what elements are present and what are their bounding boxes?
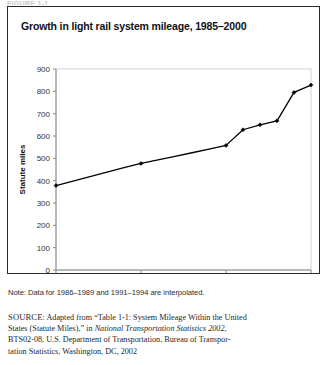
y-tick-label: 100 — [37, 244, 51, 253]
source-line2-post: , — [225, 324, 227, 333]
data-point-marker — [54, 184, 58, 188]
source-publication-title: National Transportation Statistics 2002 — [95, 324, 225, 333]
y-tick-label: 400 — [37, 177, 51, 186]
y-tick-label: 0 — [46, 266, 51, 275]
source-line-4: tation Statistics, Washington, DC, 2002 — [8, 346, 314, 357]
plot-frame — [56, 69, 311, 270]
data-point-marker — [309, 83, 313, 87]
y-tick-label: 900 — [37, 65, 51, 74]
source-line-2: States (Statute Miles),” in National Tra… — [8, 323, 314, 334]
y-tick-label: 800 — [37, 87, 51, 96]
source-line-1: SOURCE: Adapted from “Table 1-1: System … — [8, 312, 314, 323]
source-line1-text: : Adapted from “Table 1-1: System Mileag… — [43, 313, 247, 322]
y-tick-label: 300 — [37, 199, 51, 208]
data-point-marker — [139, 161, 143, 165]
y-axis-title: Statute miles — [18, 144, 27, 194]
data-line — [56, 85, 311, 186]
source-citation: SOURCE: Adapted from “Table 1-1: System … — [8, 312, 314, 357]
data-point-marker — [258, 123, 262, 127]
source-label: SOURCE — [8, 312, 43, 322]
chart-note: Note: Data for 1986–1989 and 1991–1994 a… — [8, 288, 320, 297]
line-chart: 0100200300400500600700800900198519901995… — [8, 7, 321, 275]
source-line-3: BTS02-08, U.S. Department of Transportat… — [8, 334, 314, 345]
y-tick-label: 600 — [37, 132, 51, 141]
figure-page: FIGURE 1-1 Growth in light rail system m… — [0, 0, 328, 365]
y-tick-label: 200 — [37, 221, 51, 230]
y-tick-label: 700 — [37, 110, 51, 119]
figure-box: Growth in light rail system mileage, 198… — [7, 6, 320, 274]
source-line2-pre: States (Statute Miles),” in — [8, 324, 95, 333]
y-tick-label: 500 — [37, 154, 51, 163]
cut-off-header-text: FIGURE 1-1 — [7, 0, 117, 5]
chart-plot-area: 0100200300400500600700800900198519901995… — [8, 7, 321, 275]
